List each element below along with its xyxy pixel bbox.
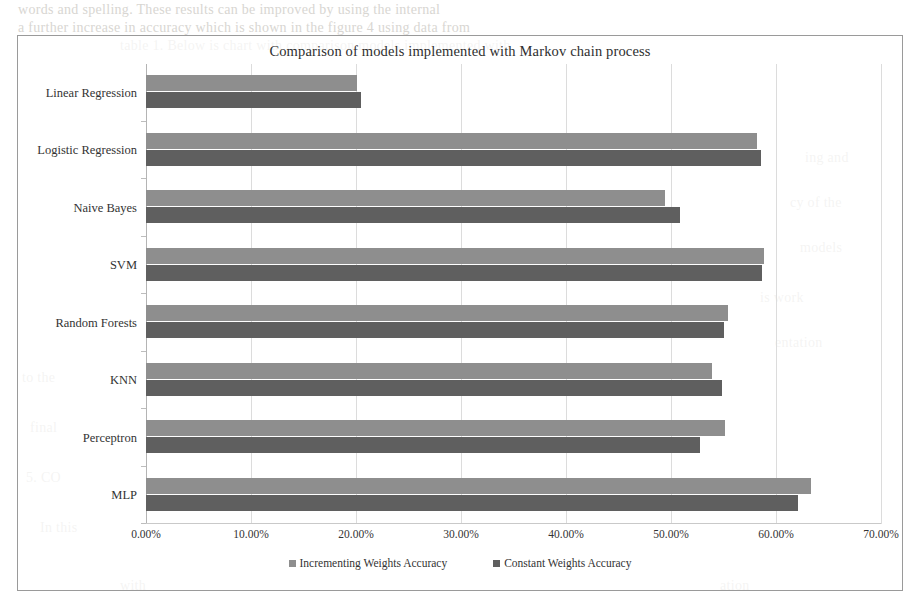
bar xyxy=(146,420,725,436)
legend-swatch-icon xyxy=(493,560,500,567)
legend-label: Incrementing Weights Accuracy xyxy=(300,557,448,569)
category-row: MLP xyxy=(146,467,881,525)
background-text-line-2: a further increase in accuracy which is … xyxy=(18,20,470,36)
x-axis-tick-label: 60.00% xyxy=(758,528,793,540)
category-row: SVM xyxy=(146,237,881,295)
plot-area: Linear RegressionLogistic RegressionNaiv… xyxy=(146,64,881,524)
bar xyxy=(146,363,712,379)
y-axis-category-label: KNN xyxy=(110,373,137,388)
y-axis-category-label: Logistic Regression xyxy=(37,143,137,158)
bar xyxy=(146,75,357,91)
bar xyxy=(146,380,722,396)
bar xyxy=(146,265,762,281)
y-axis-tickmark xyxy=(141,523,146,524)
x-axis-tick-label: 70.00% xyxy=(863,528,898,540)
category-row: Logistic Regression xyxy=(146,122,881,180)
bar xyxy=(146,495,798,511)
bar xyxy=(146,322,724,338)
bar xyxy=(146,248,764,264)
x-axis-tick-label: 20.00% xyxy=(338,528,373,540)
x-axis-tick-label: 50.00% xyxy=(653,528,688,540)
y-axis-category-label: Linear Regression xyxy=(46,85,137,100)
bar xyxy=(146,305,728,321)
x-axis-tick-label: 0.00% xyxy=(131,528,161,540)
category-row: Naive Bayes xyxy=(146,179,881,237)
category-row: Linear Regression xyxy=(146,64,881,122)
x-axis-tick-labels: 0.00%10.00%20.00%30.00%40.00%50.00%60.00… xyxy=(146,528,881,548)
bar xyxy=(146,190,665,206)
gridline xyxy=(881,64,882,524)
category-row: Random Forests xyxy=(146,294,881,352)
chart-container: Comparison of models implemented with Ma… xyxy=(17,35,903,591)
bar xyxy=(146,478,811,494)
legend-swatch-icon xyxy=(289,560,296,567)
y-axis-category-label: Perceptron xyxy=(83,430,137,445)
bar xyxy=(146,437,700,453)
category-row: KNN xyxy=(146,352,881,410)
bar xyxy=(146,207,680,223)
y-axis-category-label: Random Forests xyxy=(55,315,137,330)
category-row: Perceptron xyxy=(146,409,881,467)
bar xyxy=(146,133,757,149)
legend-item[interactable]: Incrementing Weights Accuracy xyxy=(289,557,448,569)
legend-label: Constant Weights Accuracy xyxy=(504,557,631,569)
x-axis-tick-label: 10.00% xyxy=(233,528,268,540)
y-axis-category-label: SVM xyxy=(110,258,137,273)
x-axis-tick-label: 40.00% xyxy=(548,528,583,540)
y-axis-category-label: MLP xyxy=(111,488,137,503)
chart-title: Comparison of models implemented with Ma… xyxy=(18,43,902,60)
y-axis-category-label: Naive Bayes xyxy=(73,200,137,215)
chart-legend: Incrementing Weights AccuracyConstant We… xyxy=(18,557,902,569)
x-axis-tick-label: 30.00% xyxy=(443,528,478,540)
legend-item[interactable]: Constant Weights Accuracy xyxy=(493,557,631,569)
bar xyxy=(146,150,761,166)
background-text-line-1: words and spelling. These results can be… xyxy=(18,2,440,18)
bar xyxy=(146,92,361,108)
